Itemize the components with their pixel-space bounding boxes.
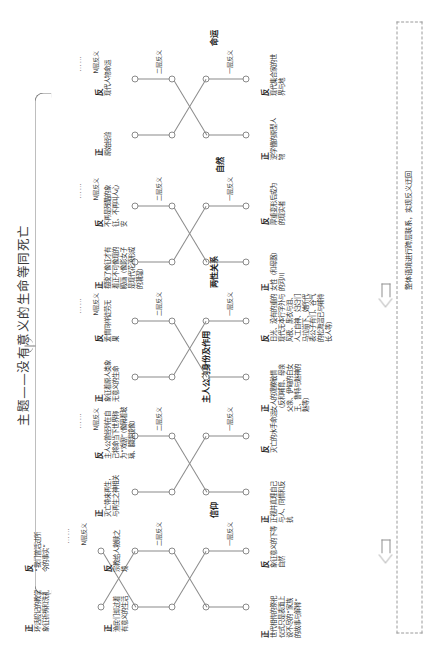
edge: [206, 205, 243, 206]
edge: [135, 606, 169, 607]
top-brace: [34, 92, 51, 594]
level2-negative: 反 主人公曾经列在自己将命当下世界称为“戏剧”（像隔着玻璃、朦胧镜像）: [94, 406, 136, 458]
edge: [206, 376, 243, 377]
feedback-label: 整体语境进行跨层联系，实现反义迂回: [402, 170, 412, 289]
level-1-label: 一层反义: [224, 406, 233, 430]
feedback-dashed-container: [396, 21, 422, 633]
level2-positive: 正 原始经验: [94, 115, 112, 155]
edge: [135, 491, 169, 492]
level-1-label: 一层反义: [224, 49, 233, 73]
node: [131, 488, 138, 495]
edge: [135, 320, 169, 321]
level-2-label: 二层反义: [153, 406, 162, 430]
level2-negative: 反 现代人物命运: [94, 53, 112, 95]
branch-gender-relations: 一层反义 二层反义 N层反义 …… 正 女人的观察敏情（反和哺育、母亲父亲、伊甸…: [56, 281, 376, 399]
diagram-canvas: 主题——没有意义的生命等同死亡 一层反义: [0, 0, 432, 649]
branch-belief: 一层反义 二层反义 N层反义 …… 正 世代相传的祭祀仪式只是表面上说不尽的“家…: [56, 511, 376, 629]
ellipsis: ……: [74, 182, 82, 198]
edge: [206, 435, 243, 436]
level2-positive: 正 灭亡带来再生，与再生之神相关: [94, 474, 120, 516]
level1-negative: 反 日光、没有的重的现代无本行字外与风夜、黑衣与泪、人工自神、妇妇们马拉崩下、她…: [260, 289, 333, 341]
level1-positive: 正 女性（和母器）的河川: [260, 246, 286, 290]
level-2-label: 二层反义: [153, 291, 162, 315]
branch-nature: 一层反义 二层反义 N层反义 …… 正 女性（和母器）的河川 反 厚重变形后成为…: [56, 166, 376, 284]
ellipsis: ……: [62, 527, 70, 543]
ellipsis: ……: [74, 297, 82, 313]
level1-negative: 反 灭亡的水手命运: [260, 408, 278, 452]
leveln-positive: 正 环话般记的教堂象征祈祷和洗礼: [24, 589, 50, 631]
edge: [206, 491, 243, 492]
edge: [206, 78, 243, 79]
edge: [135, 376, 169, 377]
edge: [206, 606, 243, 607]
level2-negative: 反 爱情同样徒劳无果: [94, 297, 120, 341]
level-2-label: 二层反义: [153, 521, 162, 545]
level-1-label: 一层反义: [224, 291, 233, 315]
edge: [206, 320, 243, 321]
level-1-label: 一层反义: [224, 176, 233, 200]
branch-category: 自然: [212, 156, 224, 172]
rotated-diagram-frame: 主题——没有意义的生命等同死亡 一层反义: [0, 0, 432, 649]
level2-positive: 正 象征着原人类象无意义的生命: [94, 357, 120, 401]
level1-positive: 正 正视并真理自己与人、同情和反抗: [260, 478, 294, 522]
edge: [135, 435, 169, 436]
edge: [135, 134, 169, 135]
level2-negative: 反 宗教给人救赎之境: [103, 527, 129, 571]
level-2-label: 二层反义: [153, 49, 162, 73]
branch-protagonist: 一层反义 二层反义 N层反义 …… 正 正视并真理自己与人、同情和反抗 反 灭亡…: [56, 396, 376, 514]
level1-positive: 正 逆学懂的原型人物: [260, 117, 286, 159]
level1-positive: 正 女人的观察敏情（反和哺育、母亲父亲、伊甸的白女王、鲁特与魅神的魅等）: [260, 363, 309, 411]
node: [131, 202, 138, 209]
edge: [135, 78, 169, 79]
level1-negative: 反 现代集合家的世界与地: [260, 53, 286, 95]
level2-negative: 反 不再是残酷的象征、不再叫人心安: [94, 180, 128, 226]
edge: [206, 550, 243, 551]
polarity-positive: 正: [260, 593, 269, 637]
node: [131, 373, 138, 380]
edge: [206, 134, 243, 135]
edge: [206, 261, 243, 262]
node: [131, 317, 138, 324]
ellipsis: ……: [74, 412, 82, 428]
leveln-negative: 反 “我们曾活过所今的事实”: [24, 527, 50, 571]
edge: [135, 550, 169, 551]
top-brace-tip: [24, 345, 35, 346]
node: [131, 131, 138, 138]
branch-category: 命运: [206, 29, 218, 45]
level2-positive: 正 渔民们却过着有意义的生活: [103, 591, 129, 631]
level1-negative: 反 象征意义的下等自然: [260, 523, 286, 567]
node: [131, 75, 138, 82]
level-2-label: 二层反义: [153, 176, 162, 200]
level1-negative: 反 厚重变形后成为的现实者: [260, 178, 286, 224]
edge: [135, 205, 169, 206]
level-1-label: 一层反义: [224, 521, 233, 545]
level-n-label: N层反义: [78, 522, 87, 545]
branch-fate: 一层反义 二层反义 N层反义 …… 正 逆学懂的原型人物 反 现代集合家的世界与…: [56, 39, 376, 157]
level1-positive: 正 世代相传的祭祀仪式只是表面上说不尽的“家族的故事与解释”: [260, 593, 302, 637]
ellipsis: ……: [74, 55, 82, 71]
polarity-negative: 反: [260, 523, 269, 567]
level2-positive: 正 摆脱了像征才有着正不可像现的殿画（像影女子是现代花源形成的潮湿）: [94, 242, 143, 288]
